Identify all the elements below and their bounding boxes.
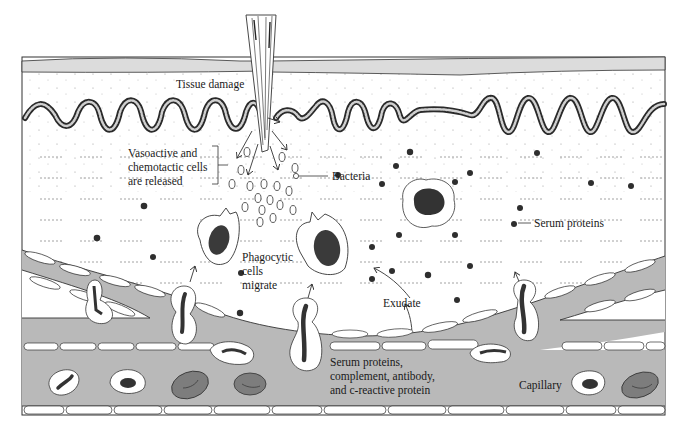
label-tissue-damage: Tissue damage [176, 77, 244, 91]
label-exudate: Exudate [383, 296, 421, 310]
label-serum-complex: Serum proteins, complement, antibody, an… [330, 355, 435, 397]
label-phagocytic-line2: cells [242, 264, 293, 278]
label-bacteria: Bacteria [332, 169, 370, 183]
label-serum-complex-line2: complement, antibody, [330, 369, 435, 383]
label-phagocytic-line1: Phagocytic [242, 250, 293, 264]
label-serum-complex-line3: and c-reactive protein [330, 383, 435, 397]
label-vasoactive-line1: Vasoactive and [128, 146, 208, 160]
label-serum-proteins: Serum proteins [534, 216, 604, 230]
label-phagocytic-cells: Phagocytic cells migrate [242, 250, 293, 292]
label-vasoactive-cells: Vasoactive and chemotactic cells are rel… [128, 146, 208, 188]
label-vasoactive-line2: chemotactic cells [128, 160, 208, 174]
label-serum-complex-line1: Serum proteins, [330, 355, 435, 369]
label-vasoactive-line3: are released [128, 174, 208, 188]
label-capillary: Capillary [519, 378, 562, 392]
label-phagocytic-line3: migrate [242, 278, 293, 292]
